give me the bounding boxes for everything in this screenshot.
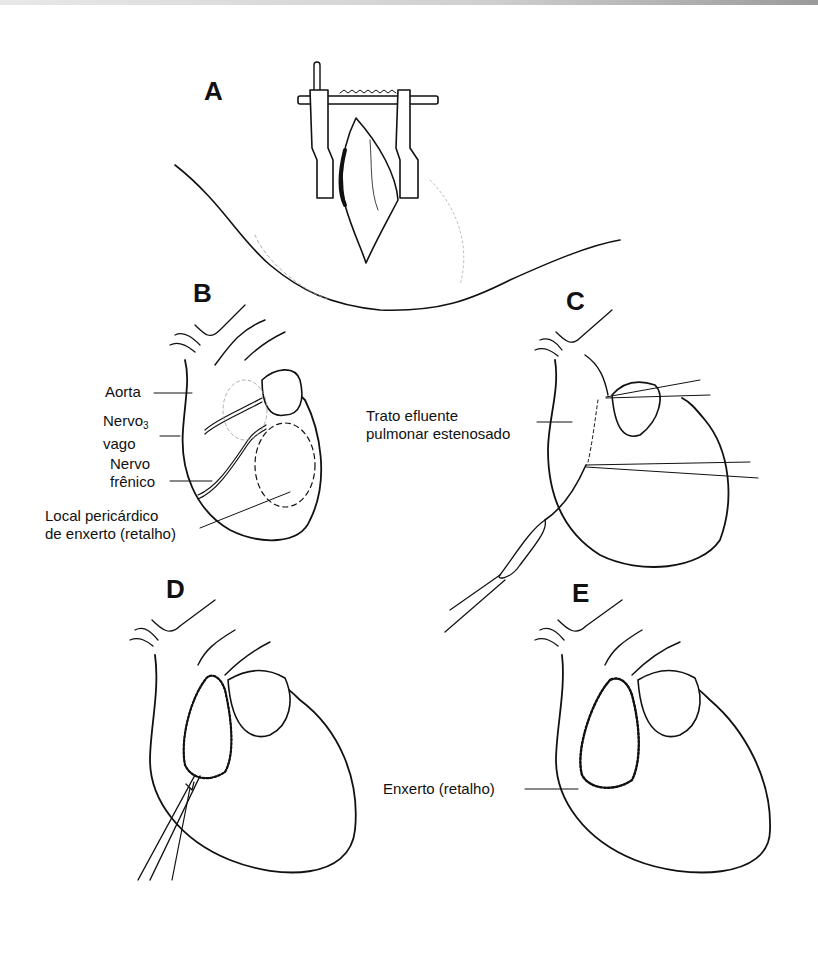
- panel-c-drawing: [445, 310, 758, 632]
- panel-letter-e: E: [572, 578, 589, 609]
- panel-d-drawing: [130, 600, 356, 880]
- label-enxerto: Enxerto (retalho): [383, 780, 495, 798]
- label-aorta: Aorta: [105, 383, 141, 401]
- panel-letter-d: D: [166, 574, 185, 605]
- panel-a-drawing: [175, 62, 620, 310]
- label-nervo-frenico: Nervo frênico: [110, 455, 155, 491]
- panel-letter-c: C: [566, 286, 585, 317]
- panel-b-drawing: [170, 305, 321, 540]
- label-local-pericardico: Local pericárdico de enxerto (retalho): [45, 507, 176, 543]
- panel-e-drawing: [535, 600, 770, 872]
- label-nervo-vago: Nervo3 vago: [103, 412, 149, 453]
- panel-letter-a: A: [204, 76, 223, 107]
- panel-letter-b: B: [193, 278, 212, 309]
- label-trato-efluente: Trato efluente pulmonar estenosado: [366, 407, 510, 443]
